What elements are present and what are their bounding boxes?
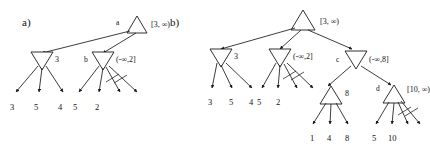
panel-b-node-d-label: d	[376, 84, 380, 93]
panel-b-node-8-label: 8	[345, 89, 349, 98]
panel-a-edge-root-to-nodeb	[103, 33, 136, 53]
panel-b-node-8[interactable]: 8	[320, 86, 349, 104]
panel-b-leaf: 4	[327, 133, 332, 143]
panel-a-node-3-label: 3	[55, 55, 59, 64]
panel-b-node-d[interactable]: d [10, ∞)	[376, 84, 430, 103]
panel-b-edge-n2-struck2	[287, 63, 313, 88]
panel-a-edge-nodeb-struck1	[106, 67, 120, 92]
panel-b-node-d-interval-label: [10, ∞)	[407, 85, 430, 94]
panel-b-root-node[interactable]: [3, ∞)	[291, 10, 339, 30]
triangle-down-shape	[345, 51, 367, 69]
panel-a-leaf: 4	[58, 102, 63, 112]
panel-a-edge-node3-leaf1	[16, 66, 38, 92]
panel-a-edge-node3-leaf3	[46, 66, 63, 92]
triangle-down-shape	[31, 52, 53, 70]
panel-a-root-interval-label: [3, ∞)	[151, 20, 170, 29]
panel-a-node-b-interval-label: (-∞,2]	[116, 55, 136, 64]
panel-a-edge-nodeb-leaf2	[99, 68, 103, 92]
panel-b-node-c-interval-label: (-∞,8]	[369, 55, 389, 64]
panel-a: a) a [3, ∞) 3 3 5 4 b (-∞,2]	[10, 16, 170, 112]
panel-b-edge-node8-leaf3	[336, 103, 348, 124]
panel-b-edge-node3-leaf1	[212, 63, 217, 88]
panel-b-edge-root-to-nodec	[308, 30, 352, 49]
panel-a-node-3[interactable]: 3	[31, 52, 59, 70]
panel-b-leaf: 5	[257, 97, 261, 107]
panel-a-edge-nodeb-leaf1	[79, 66, 99, 92]
panel-b-root-interval-label: [3, ∞)	[320, 17, 339, 26]
panel-b-node-3[interactable]: 3	[210, 49, 238, 67]
panel-a-root-node-label: a	[116, 18, 120, 27]
panel-b-node-c[interactable]: c (-∞,8]	[336, 51, 389, 69]
panel-b-edge-nodec-to-noded	[361, 66, 391, 85]
panel-b-edge-n2-leaf2	[278, 65, 280, 88]
panel-b-edge-noded-struck1	[398, 102, 408, 124]
panel-b-node-neg-inf-2-label: (-∞,2]	[293, 52, 313, 61]
panel-b-edge-nodec-to-node8	[328, 66, 351, 86]
triangle-up-shape	[320, 86, 342, 104]
panel-b-edge-node8-leaf2	[330, 104, 331, 124]
panel-b-node-3-label: 3	[234, 52, 238, 61]
triangle-up-shape	[383, 85, 405, 103]
panel-b-leaf: 5	[229, 97, 233, 107]
panel-b-node-c-label: c	[336, 55, 340, 64]
panel-b: b) [3, ∞) 3 3 5 4 (-∞,2] 5	[170, 10, 430, 143]
panel-b-leaf: 2	[276, 97, 280, 107]
triangle-up-shape	[127, 16, 147, 33]
panel-a-leaf: 5	[34, 102, 38, 112]
panel-b-edge-n2-struck1	[284, 64, 297, 88]
triangle-up-shape	[291, 10, 315, 30]
figure-container: a) a [3, ∞) 3 3 5 4 b (-∞,2]	[0, 0, 430, 148]
panel-b-edge-n2-leaf1	[262, 63, 276, 88]
panel-a-root-node[interactable]: a [3, ∞)	[116, 16, 170, 33]
tree-diagram-svg: a) a [3, ∞) 3 3 5 4 b (-∞,2]	[0, 0, 430, 148]
panel-b-edge-noded-leaf2	[392, 103, 394, 124]
panel-b-leaf: 3	[208, 97, 212, 107]
panel-a-edge-node3-leaf2	[39, 68, 42, 92]
panel-b-leaf: 1	[310, 133, 314, 143]
panel-b-leaf: 8	[345, 133, 349, 143]
panel-b-leaf: 10	[388, 133, 397, 143]
panel-b-leaf: 5	[372, 133, 376, 143]
panel-b-edge-node3-leaf2	[221, 65, 232, 88]
panel-b-edge-noded-leaf1	[376, 102, 389, 124]
triangle-down-shape	[269, 49, 291, 67]
panel-a-label: a)	[22, 16, 31, 29]
panel-b-label: b)	[170, 16, 180, 29]
panel-a-leaf: 2	[95, 102, 99, 112]
panel-a-node-b-label: b	[84, 55, 88, 64]
panel-a-edge-root-to-node3	[42, 31, 130, 53]
panel-a-leaf: 5	[73, 102, 77, 112]
panel-b-edge-node8-leaf1	[313, 103, 326, 124]
panel-a-leaf: 3	[10, 102, 14, 112]
panel-b-edge-root-to-node-neg-inf-2	[280, 30, 301, 49]
triangle-down-shape	[210, 49, 232, 67]
panel-b-leaf: 4	[249, 97, 254, 107]
